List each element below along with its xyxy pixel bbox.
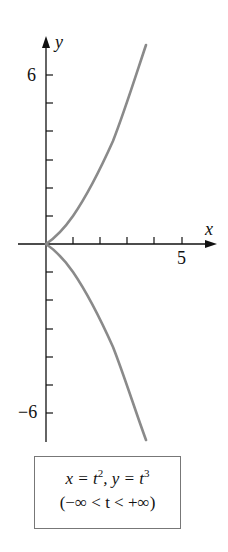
upper-branch-curve (46, 45, 146, 244)
parameter-range: (−∞ < t < +∞) (35, 493, 180, 513)
equation-caption-box: x = t2, y = t3 (−∞ < t < +∞) (34, 456, 181, 529)
x-tick-label-5: 5 (177, 248, 186, 269)
x-axis-arrow-icon (205, 240, 217, 248)
equation-line: x = t2, y = t3 (35, 467, 180, 489)
x-ticks (73, 237, 182, 244)
y-axis-arrow-icon (42, 36, 50, 48)
y-tick-label-neg6: −6 (18, 402, 37, 423)
y-axis-label: y (55, 32, 63, 53)
lower-branch-curve (46, 244, 146, 440)
y-tick-label-6: 6 (27, 65, 36, 86)
x-axis-label: x (205, 219, 213, 240)
